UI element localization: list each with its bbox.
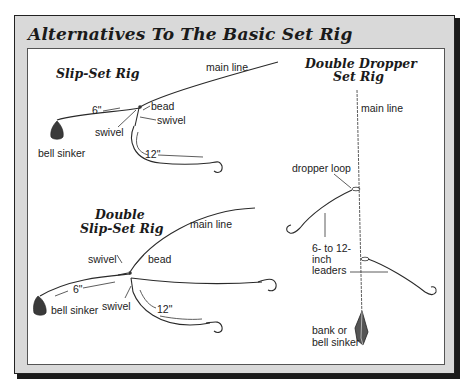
slip-set-6in-label: 6" xyxy=(92,104,102,116)
slip-set-rig: Slip-Set Rig main line 6" bell sinker be… xyxy=(38,61,278,172)
double-dropper-leaders-label-3: leaders xyxy=(312,264,346,276)
double-slip-set-right-leader xyxy=(131,278,262,283)
double-slip-set-sinker-leader xyxy=(40,274,130,296)
slip-set-bead-label: bead xyxy=(151,100,175,112)
slip-set-swivel-right-label: swivel xyxy=(157,114,186,126)
double-dropper-sinker-label-1: bank or xyxy=(312,324,348,336)
double-slip-set-swivel-bottom-label: swivel xyxy=(102,300,131,312)
slip-set-12in-label: 12" xyxy=(145,148,161,160)
double-dropper-sinker-label-2: bell sinker xyxy=(312,336,360,348)
double-slip-set-heading-2: Slip-Set Rig xyxy=(80,221,164,236)
slip-set-main-line-label: main line xyxy=(206,61,248,73)
double-dropper-left-leader xyxy=(300,190,352,228)
double-slip-set-rig: Double Slip-Set Rig main line swivel bea… xyxy=(33,207,276,332)
double-dropper-main-line xyxy=(357,90,362,320)
rig-diagrams: Slip-Set Rig main line 6" bell sinker be… xyxy=(0,0,472,388)
hook-icon xyxy=(425,287,436,295)
double-dropper-right-leader xyxy=(368,259,425,292)
swivel-icon xyxy=(131,278,133,292)
hook-icon xyxy=(287,225,300,233)
double-slip-set-main-line-label: main line xyxy=(190,218,232,230)
double-dropper-set-rig: Double Dropper Set Rig main line dropper… xyxy=(287,56,436,348)
hook-icon xyxy=(210,162,222,173)
double-slip-set-bead-label: bead xyxy=(148,253,172,265)
slip-set-heading: Slip-Set Rig xyxy=(56,66,140,81)
dropper-loop-icon xyxy=(361,257,369,261)
slip-set-swivel-left-label: swivel xyxy=(95,126,124,138)
double-slip-set-6in-label: 6" xyxy=(73,283,83,295)
bell-sinker-icon xyxy=(33,296,46,315)
bell-sinker-icon xyxy=(51,121,64,139)
double-slip-set-12in-label: 12" xyxy=(157,303,173,315)
double-slip-set-heading-1: Double xyxy=(94,207,145,222)
double-dropper-loop-label: dropper loop xyxy=(292,162,351,174)
slip-set-bell-sinker-label: bell sinker xyxy=(38,147,86,159)
dropper-loop-icon xyxy=(352,187,360,191)
double-slip-set-bell-sinker-label: bell sinker xyxy=(51,304,99,316)
double-dropper-heading-2: Set Rig xyxy=(333,69,384,84)
hook-icon xyxy=(258,279,276,291)
double-dropper-main-line-label: main line xyxy=(361,102,403,114)
double-slip-set-swivel-top-label: swivel xyxy=(88,253,117,265)
slip-set-hook-leader xyxy=(132,126,210,164)
